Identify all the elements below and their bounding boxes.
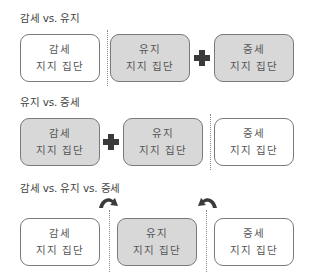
divider-line (109, 210, 110, 272)
divider-line (107, 30, 108, 86)
curved-arrow-left-icon (196, 195, 218, 209)
box-label-top: 감세 (49, 41, 71, 58)
group-box-cut: 감세 지지 집단 (20, 118, 100, 166)
box-label-bottom: 지지 집단 (133, 242, 181, 259)
group-box-raise: 증세 지지 집단 (214, 34, 294, 82)
section-2-heading: 유지 vs. 증세 (20, 94, 80, 109)
box-label-bottom: 지지 집단 (36, 58, 84, 75)
group-box-maintain: 유지 지지 집단 (117, 218, 197, 266)
box-label-bottom: 지지 집단 (126, 58, 174, 75)
box-label-bottom: 지지 집단 (230, 142, 278, 159)
section-1-heading: 감세 vs. 유지 (20, 10, 80, 25)
box-label-top: 유지 (146, 225, 168, 242)
plus-icon (194, 50, 210, 66)
group-box-raise: 증세 지지 집단 (214, 218, 294, 266)
section-3-heading: 감세 vs. 유지 vs. 증세 (20, 180, 120, 195)
group-box-raise: 증세 지지 집단 (214, 118, 294, 166)
box-label-top: 증세 (243, 225, 265, 242)
box-label-bottom: 지지 집단 (36, 142, 84, 159)
box-label-top: 감세 (49, 225, 71, 242)
group-box-cut: 감세 지지 집단 (20, 218, 100, 266)
group-box-cut: 감세 지지 집단 (20, 34, 100, 82)
curved-arrow-right-icon (98, 195, 120, 209)
box-label-top: 유지 (152, 125, 174, 142)
box-label-bottom: 지지 집단 (230, 58, 278, 75)
box-label-bottom: 지지 집단 (139, 142, 187, 159)
group-box-maintain: 유지 지지 집단 (110, 34, 190, 82)
divider-line (206, 210, 207, 272)
box-label-top: 감세 (49, 125, 71, 142)
box-label-top: 증세 (243, 41, 265, 58)
box-label-bottom: 지지 집단 (230, 242, 278, 259)
box-label-top: 증세 (243, 125, 265, 142)
divider-line (210, 114, 211, 170)
group-box-maintain: 유지 지지 집단 (123, 118, 203, 166)
box-label-top: 유지 (139, 41, 161, 58)
box-label-bottom: 지지 집단 (36, 242, 84, 259)
plus-icon (103, 134, 119, 150)
